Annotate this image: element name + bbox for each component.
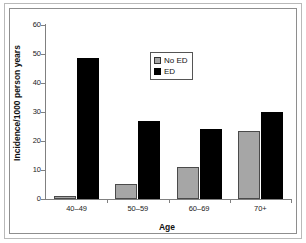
x-axis-label: Age xyxy=(42,222,292,232)
legend-item-ed: ED xyxy=(154,66,188,77)
legend-label-ed: ED xyxy=(164,67,175,77)
y-tick-mark xyxy=(41,199,46,200)
y-axis-label: Incidence/1000 person years xyxy=(12,23,22,183)
y-tick-label-wrap: 0 xyxy=(8,194,41,204)
y-tick-label: 20 xyxy=(15,136,41,145)
bar-ed-0 xyxy=(77,58,99,199)
y-tick-label-wrap: 50 xyxy=(8,49,41,59)
x-tick-label: 40–49 xyxy=(47,204,107,213)
legend-label-no-ed: No ED xyxy=(164,56,188,66)
chart-figure: Incidence/1000 person years Age 01020304… xyxy=(0,0,306,243)
y-tick-label: 10 xyxy=(15,165,41,174)
bar-ed-3 xyxy=(261,112,283,199)
gray-swatch-icon xyxy=(154,57,161,64)
y-tick-label: 60 xyxy=(15,20,41,29)
x-tick-label: 60–69 xyxy=(169,204,229,213)
legend-item-no-ed: No ED xyxy=(154,55,188,66)
x-tick-mark xyxy=(169,199,170,203)
y-tick-label: 30 xyxy=(15,107,41,116)
x-tick-mark xyxy=(107,199,108,203)
bar-no-ed-3 xyxy=(238,131,260,199)
bar-no-ed-2 xyxy=(177,167,199,199)
y-tick-label-wrap: 20 xyxy=(8,136,41,146)
bar-no-ed-0 xyxy=(54,196,76,199)
y-tick-label-wrap: 60 xyxy=(8,20,41,30)
x-tick-mark xyxy=(291,199,292,203)
bar-ed-1 xyxy=(138,121,160,199)
bar-ed-2 xyxy=(200,129,222,199)
chart-legend: No ED ED xyxy=(150,52,193,80)
bar-no-ed-1 xyxy=(115,184,137,199)
x-tick-label: 70+ xyxy=(230,204,290,213)
x-tick-mark xyxy=(230,199,231,203)
y-tick-label: 0 xyxy=(15,194,41,203)
y-tick-label-wrap: 10 xyxy=(8,165,41,175)
x-tick-label: 50–59 xyxy=(108,204,168,213)
black-swatch-icon xyxy=(154,68,161,75)
y-tick-label: 50 xyxy=(15,49,41,58)
y-tick-label: 40 xyxy=(15,78,41,87)
y-tick-label-wrap: 30 xyxy=(8,107,41,117)
y-tick-label-wrap: 40 xyxy=(8,78,41,88)
